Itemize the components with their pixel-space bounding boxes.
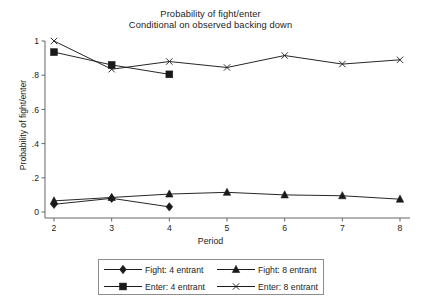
- chart-legend: Fight: 4 entrant Fight: 8 entrant Enter:…: [98, 259, 324, 295]
- y-tick-label: 1: [34, 36, 39, 46]
- x-tick-label: 4: [167, 223, 172, 233]
- x-tick-label: 8: [398, 223, 403, 233]
- x-axis: 2345678: [45, 218, 410, 233]
- legend-item-fight-8-entrant: Fight: 8 entrant: [212, 261, 325, 278]
- y-tick-label: .6: [32, 105, 39, 115]
- legend-key-square-icon: [103, 280, 143, 293]
- data-point-triangle-marker: [223, 188, 230, 195]
- y-tick-label: .8: [32, 70, 39, 80]
- y-tick-label: .2: [32, 173, 39, 183]
- series-enter-8-entrant: [51, 38, 403, 73]
- legend-key-triangle-icon: [216, 263, 256, 276]
- legend-label: Fight: 8 entrant: [258, 265, 316, 275]
- legend-key-cross-icon: [216, 280, 256, 293]
- y-tick-label: .4: [32, 139, 39, 149]
- data-point-triangle-marker: [166, 190, 173, 197]
- data-point-triangle-marker: [232, 265, 239, 272]
- legend-item-enter-4-entrant: Enter: 4 entrant: [99, 278, 212, 295]
- legend-item-fight-4-entrant: Fight: 4 entrant: [99, 261, 212, 278]
- data-point-square-marker: [166, 71, 173, 78]
- data-point-square-marker: [120, 283, 127, 290]
- y-axis: 0.2.4.6.81: [32, 36, 45, 218]
- legend-label: Enter: 4 entrant: [145, 282, 205, 292]
- data-point-triangle-marker: [339, 192, 346, 199]
- x-tick-label: 5: [225, 223, 230, 233]
- legend-item-enter-8-entrant: Enter: 8 entrant: [212, 278, 325, 295]
- x-tick-label: 2: [52, 223, 57, 233]
- legend-row: Enter: 4 entrant Enter: 8 entrant: [99, 278, 325, 295]
- series-fight-8-entrant: [50, 188, 403, 204]
- legend-row: Fight: 4 entrant Fight: 8 entrant: [99, 261, 325, 278]
- data-series-group: [50, 38, 403, 211]
- legend-key-diamond-icon: [103, 263, 143, 276]
- data-point-diamond-marker: [166, 203, 173, 211]
- x-tick-label: 7: [340, 223, 345, 233]
- legend-label: Fight: 4 entrant: [145, 265, 203, 275]
- y-tick-label: 0: [34, 207, 39, 217]
- legend-label: Enter: 8 entrant: [258, 282, 318, 292]
- data-point-diamond-marker: [120, 265, 127, 273]
- series-line: [54, 41, 400, 69]
- data-point-square-marker: [51, 49, 58, 56]
- data-point-cross-marker: [51, 38, 57, 44]
- chart-figure: Probability of fight/enter Conditional o…: [0, 0, 421, 307]
- x-tick-label: 6: [282, 223, 287, 233]
- x-tick-label: 3: [109, 223, 114, 233]
